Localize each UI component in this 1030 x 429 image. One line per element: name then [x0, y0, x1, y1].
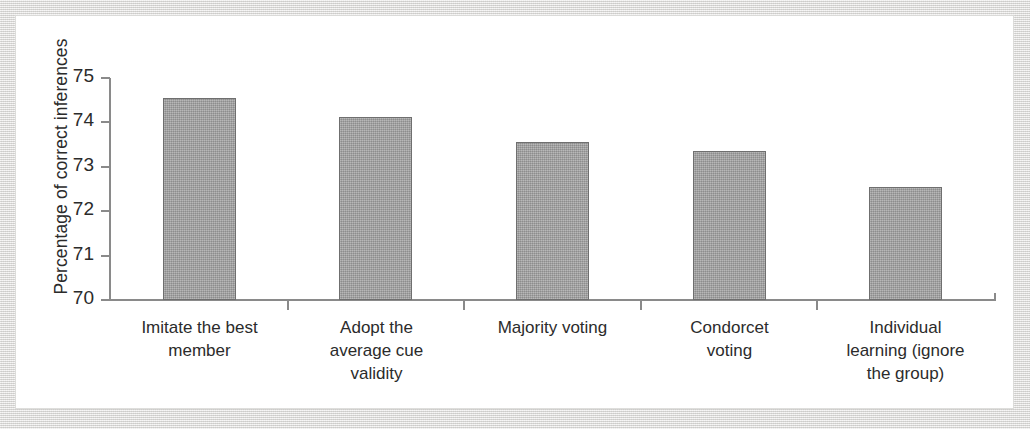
x-axis-category-label-line: Individual [817, 316, 994, 339]
x-axis-category-label-line: Adopt the [288, 316, 465, 339]
x-axis-separator-tick [463, 301, 465, 310]
y-axis-tick-label: 74 [46, 109, 94, 131]
x-axis-category-label-line: average cue [288, 339, 465, 362]
x-axis-category-label: Individuallearning (ignorethe group) [817, 316, 994, 385]
bar [516, 142, 589, 300]
x-axis-category-label-line: voting [641, 339, 818, 362]
x-axis-category-label-line: learning (ignore [817, 339, 994, 362]
figure-panel: Percentage of correct inferences 7574737… [16, 16, 1013, 408]
bar [869, 187, 942, 300]
y-axis-tick-label: 71 [46, 243, 94, 265]
bar [693, 151, 766, 300]
bar [163, 98, 236, 300]
y-axis-tick-label: 70 [46, 287, 94, 309]
x-axis-category-label: Imitate the bestmember [111, 316, 288, 362]
y-axis-tick [101, 210, 110, 212]
x-axis-category-label: Adopt theaverage cuevalidity [288, 316, 465, 385]
x-axis-category-label: Majority voting [464, 316, 641, 339]
x-axis-category-label: Condorcetvoting [641, 316, 818, 362]
bar-chart: Percentage of correct inferences 7574737… [16, 16, 1013, 408]
y-axis-tick-label: 75 [46, 65, 94, 87]
x-axis-category-label-line: Condorcet [641, 316, 818, 339]
y-axis-tick [101, 299, 110, 301]
y-axis-tick [101, 121, 110, 123]
x-axis-separator-tick [287, 301, 289, 310]
x-axis-right-cap [994, 293, 996, 301]
y-axis-tick [101, 77, 110, 79]
y-axis-line [109, 78, 111, 300]
y-axis-tick-label: 73 [46, 154, 94, 176]
x-axis-category-label-line: validity [288, 362, 465, 385]
chart-screenshot: Percentage of correct inferences 7574737… [0, 0, 1030, 429]
bar [339, 117, 412, 300]
y-axis-tick-label: 72 [46, 198, 94, 220]
x-axis-category-label-line: Imitate the best [111, 316, 288, 339]
x-axis-category-label-line: the group) [817, 362, 994, 385]
x-axis-category-label-line: Majority voting [464, 316, 641, 339]
x-axis-separator-tick [640, 301, 642, 310]
x-axis-category-label-line: member [111, 339, 288, 362]
y-axis-tick [101, 255, 110, 257]
y-axis-tick [101, 166, 110, 168]
x-axis-separator-tick [816, 301, 818, 310]
